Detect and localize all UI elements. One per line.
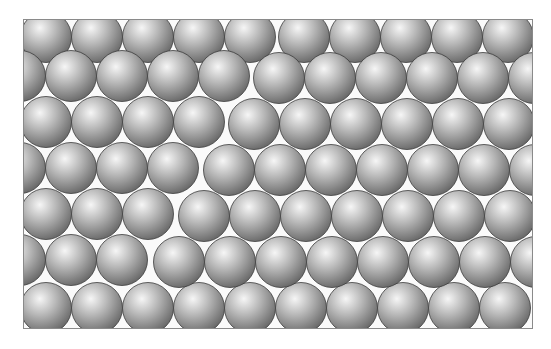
sphere (148, 143, 199, 194)
sphere (154, 237, 205, 288)
sphere (458, 53, 509, 104)
sphere (204, 145, 255, 196)
sphere (306, 145, 357, 196)
sphere (357, 145, 408, 196)
sphere (276, 283, 327, 330)
sphere (72, 189, 123, 240)
sphere (460, 237, 511, 288)
sphere (123, 189, 174, 240)
sphere (24, 235, 46, 286)
sphere (225, 283, 276, 330)
sphere-lattice (24, 20, 533, 329)
sphere (307, 237, 358, 288)
sphere (433, 99, 484, 150)
sphere (429, 283, 480, 330)
sphere (123, 283, 174, 330)
sphere (511, 237, 534, 288)
sphere (256, 237, 307, 288)
sphere (24, 189, 72, 240)
sphere (72, 283, 123, 330)
sphere (97, 51, 148, 102)
sphere (72, 97, 123, 148)
sphere (356, 53, 407, 104)
sphere (46, 143, 97, 194)
sphere (331, 99, 382, 150)
sphere (382, 99, 433, 150)
sphere (24, 143, 46, 194)
sphere (229, 99, 280, 150)
sphere (174, 97, 225, 148)
sphere (305, 53, 356, 104)
sphere-packing-figure (23, 19, 533, 329)
sphere (409, 237, 460, 288)
sphere (485, 191, 534, 242)
sphere (123, 97, 174, 148)
sphere (459, 145, 510, 196)
sphere (434, 191, 485, 242)
sphere (97, 235, 148, 286)
sphere (332, 191, 383, 242)
sphere (484, 99, 534, 150)
sphere (480, 283, 531, 330)
sphere (281, 191, 332, 242)
sphere (97, 143, 148, 194)
sphere (510, 145, 534, 196)
sphere (280, 99, 331, 150)
sphere (255, 145, 306, 196)
sphere (327, 283, 378, 330)
sphere (407, 53, 458, 104)
sphere (46, 51, 97, 102)
sphere (148, 51, 199, 102)
sphere (230, 191, 281, 242)
sphere (378, 283, 429, 330)
sphere (199, 51, 250, 102)
sphere (24, 97, 72, 148)
sphere (383, 191, 434, 242)
sphere (358, 237, 409, 288)
sphere (254, 53, 305, 104)
sphere (24, 283, 72, 330)
sphere (46, 235, 97, 286)
sphere (179, 191, 230, 242)
sphere (174, 283, 225, 330)
sphere (205, 237, 256, 288)
sphere (408, 145, 459, 196)
